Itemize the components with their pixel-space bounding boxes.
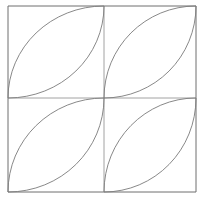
geometric-figure-canvas [0, 0, 204, 200]
geometry-drawing [0, 0, 204, 200]
figure-background [0, 0, 204, 200]
